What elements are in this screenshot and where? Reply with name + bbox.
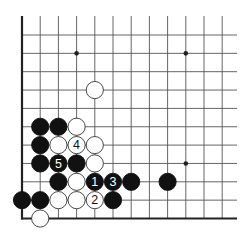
black-stone bbox=[50, 173, 67, 190]
move-number: 3 bbox=[110, 175, 117, 189]
black-stone bbox=[159, 173, 176, 190]
black-stone bbox=[68, 155, 85, 172]
white-stone bbox=[86, 155, 103, 172]
black-stone bbox=[32, 192, 49, 209]
white-stone bbox=[50, 137, 67, 154]
go-board: 45132 bbox=[0, 0, 251, 239]
move-number: 2 bbox=[91, 193, 98, 207]
black-stone-5: 5 bbox=[50, 155, 67, 172]
black-stone bbox=[32, 118, 49, 135]
move-number: 1 bbox=[91, 175, 98, 189]
white-stone-2: 2 bbox=[86, 192, 103, 209]
black-stone bbox=[104, 192, 121, 209]
white-stone-4: 4 bbox=[68, 137, 85, 154]
black-stone bbox=[13, 192, 30, 209]
black-stone bbox=[123, 173, 140, 190]
move-number: 5 bbox=[55, 157, 62, 171]
white-stone bbox=[68, 173, 85, 190]
star-point bbox=[184, 161, 189, 166]
black-stone bbox=[32, 155, 49, 172]
white-stone bbox=[86, 81, 103, 98]
star-point bbox=[74, 51, 79, 56]
black-stone-3: 3 bbox=[104, 173, 121, 190]
white-stone bbox=[86, 137, 103, 154]
black-stone-1: 1 bbox=[86, 173, 103, 190]
white-stone bbox=[50, 192, 67, 209]
black-stone bbox=[32, 137, 49, 154]
white-stone bbox=[32, 210, 49, 227]
white-stone bbox=[68, 118, 85, 135]
star-point bbox=[184, 51, 189, 56]
white-stone bbox=[68, 192, 85, 209]
black-stone bbox=[50, 118, 67, 135]
move-number: 4 bbox=[73, 138, 80, 152]
